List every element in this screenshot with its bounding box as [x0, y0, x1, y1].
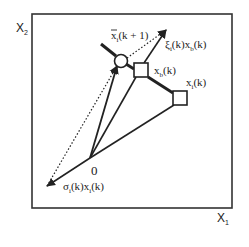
label-xi-term: ξi(k)xb(k)	[165, 38, 207, 53]
vector-diagram: X2 X1 xi(k + 1) ξi(k)xb(k) xb(k) xi(k) 0…	[0, 0, 249, 247]
origin-label: 0	[91, 163, 98, 178]
xb-node-square	[134, 63, 148, 77]
svg-text:xi(k + 1): xi(k + 1)	[111, 29, 149, 44]
label-xbar-next: xi(k + 1)	[111, 29, 149, 44]
y-axis-label: X2	[16, 21, 28, 36]
line-origin-to-xb	[90, 77, 136, 158]
xbar-node-circle	[115, 55, 128, 68]
thick-segment-xb-xi	[148, 77, 173, 93]
dotted-sigma-to-xbar	[47, 66, 117, 186]
thick-segment-upper	[101, 44, 116, 56]
xi-node-square	[173, 91, 187, 105]
label-xi: xi(k)	[186, 76, 207, 91]
label-sigma-term: σi(k)xi(k)	[63, 180, 104, 195]
label-xb: xb(k)	[154, 64, 176, 79]
x-axis-label-text: X1	[217, 211, 229, 226]
